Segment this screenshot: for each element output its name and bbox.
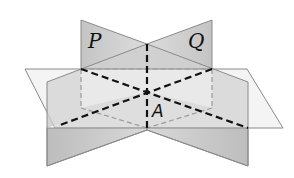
label-point-a: A — [151, 101, 164, 121]
diagram-canvas: P Q A — [0, 0, 294, 178]
label-plane-q: Q — [188, 29, 204, 53]
planes-diagram: P Q A — [0, 0, 294, 178]
label-plane-p: P — [87, 29, 102, 53]
point-a-marker — [145, 90, 149, 94]
